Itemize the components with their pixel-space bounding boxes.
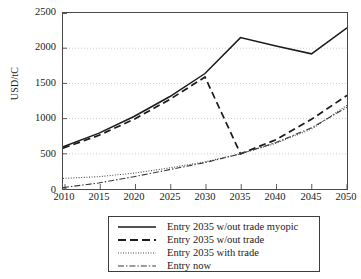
legend-swatch-solid (117, 221, 157, 233)
y-tick-1000: 1000 (22, 113, 56, 124)
x-axis-tick-labels: 2010 2015 2020 2025 2030 2035 2040 2045 … (0, 192, 361, 208)
x-tick-2010: 2010 (44, 192, 84, 203)
legend: Entry 2035 w/out trade myopic Entry 2035… (108, 216, 320, 272)
legend-label-3: Entry now (167, 260, 211, 272)
y-axis-tick-labels: 2500 2000 1500 1000 500 0 (20, 0, 56, 200)
series-line-entry-2035-wout-trade-myopic (63, 28, 347, 147)
series-line-entry-now (63, 107, 347, 187)
legend-swatch-dashed (117, 234, 157, 246)
x-tick-2045: 2045 (291, 192, 331, 203)
legend-item-1: Entry 2035 w/out trade (109, 234, 319, 246)
x-axis-ticks (65, 184, 347, 189)
legend-swatch-dotted (117, 247, 157, 259)
chart-figure: USD/tC 2500 2000 1500 1000 500 0 (0, 0, 361, 279)
x-tick-2040: 2040 (255, 192, 295, 203)
y-tick-2000: 2000 (22, 42, 56, 53)
legend-item-3: Entry now (109, 260, 319, 272)
y-tick-2500: 2500 (22, 7, 56, 18)
x-tick-2015: 2015 (79, 192, 119, 203)
x-tick-2030: 2030 (185, 192, 225, 203)
data-series-group (63, 28, 347, 188)
x-tick-2025: 2025 (150, 192, 190, 203)
series-canvas (63, 13, 347, 189)
y-axis-title: USD/tC (9, 54, 20, 114)
series-line-entry-2035-wout-trade (63, 77, 347, 154)
legend-label-0: Entry 2035 w/out trade myopic (167, 221, 298, 233)
y-tick-1500: 1500 (22, 78, 56, 89)
x-tick-2050: 2050 (326, 192, 361, 203)
x-tick-2020: 2020 (114, 192, 154, 203)
y-axis-ticks (63, 14, 67, 190)
y-tick-500: 500 (22, 149, 56, 160)
x-tick-2035: 2035 (220, 192, 260, 203)
legend-swatch-dashdot (117, 260, 157, 272)
gridlines (63, 48, 347, 154)
legend-label-2: Entry 2035 with trade (167, 247, 259, 259)
series-line-entry-2035-with-trade (63, 105, 347, 178)
legend-label-1: Entry 2035 w/out trade (167, 234, 264, 246)
plot-area (62, 12, 348, 190)
legend-item-0: Entry 2035 w/out trade myopic (109, 221, 319, 233)
legend-item-2: Entry 2035 with trade (109, 247, 319, 259)
